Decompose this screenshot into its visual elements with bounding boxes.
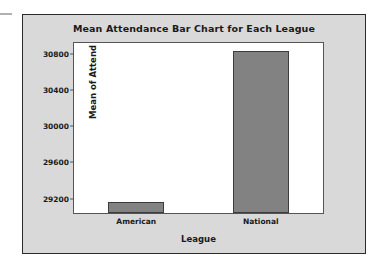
edge-dash-mark bbox=[0, 13, 12, 15]
y-axis-title: Mean of Attend bbox=[88, 27, 98, 137]
bar-american[interactable] bbox=[108, 202, 164, 213]
y-axis-tickmark bbox=[70, 90, 74, 91]
y-axis-tick-label: 30000 bbox=[43, 122, 69, 131]
y-axis-tick-label: 29200 bbox=[43, 194, 69, 203]
y-axis-tickmark bbox=[70, 162, 74, 163]
y-axis-tick-label: 30800 bbox=[43, 49, 69, 58]
y-axis-tickmark bbox=[70, 198, 74, 199]
x-axis-tick-label: American bbox=[116, 217, 156, 226]
chart-title: Mean Attendance Bar Chart for Each Leagu… bbox=[23, 23, 365, 34]
y-axis-tickmark bbox=[70, 126, 74, 127]
bar-national[interactable] bbox=[233, 51, 289, 213]
x-axis-title: League bbox=[73, 234, 324, 244]
y-axis-tick-label: 29600 bbox=[43, 158, 69, 167]
plot-inner: Mean of Attend 2920029600300003040030800… bbox=[74, 43, 323, 213]
y-axis-tick-label: 30400 bbox=[43, 86, 69, 95]
chart-panel: Mean Attendance Bar Chart for Each Leagu… bbox=[22, 14, 366, 254]
x-axis-tick-label: National bbox=[243, 217, 279, 226]
plot-area: Mean of Attend 2920029600300003040030800… bbox=[73, 42, 324, 214]
y-axis-tickmark bbox=[70, 53, 74, 54]
